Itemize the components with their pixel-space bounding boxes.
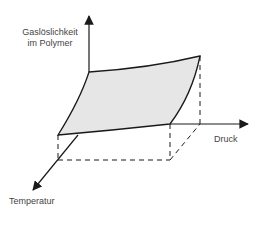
vertical-axis-label: Gaslöslichkeit im Polymer [14,27,86,49]
temperature-axis [33,135,78,190]
vertical-axis-label-line1: Gaslöslichkeit [14,27,86,38]
solubility-surface [58,56,200,135]
pressure-axis-label: Druck [214,134,238,145]
temperature-axis-label: Temperatur [9,196,55,207]
vertical-axis-label-line2: im Polymer [14,38,86,49]
